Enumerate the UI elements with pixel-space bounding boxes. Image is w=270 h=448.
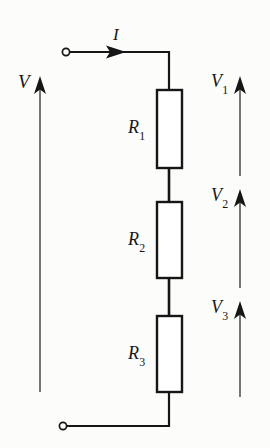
voltage-arrow-V2 [234, 189, 246, 288]
label-voltage-3-subscript: 3 [222, 309, 228, 323]
label-source-voltage-symbol: V [18, 71, 30, 92]
label-source-voltage: V [18, 72, 30, 95]
label-voltage-1-subscript: 1 [222, 83, 228, 97]
label-voltage-1-symbol: V [211, 71, 222, 91]
label-voltage-1: V1 [211, 72, 228, 94]
voltage-arrow-V [34, 76, 46, 392]
circuit-wiring [67, 52, 170, 426]
circuit-schematic-canvas [0, 0, 270, 448]
circuit-diagram-figure: V I R1 R2 R3 V1 V2 V3 [0, 0, 270, 448]
resistor-r3-body [157, 316, 182, 392]
label-resistor-2-subscript: 2 [139, 241, 145, 255]
label-resistor-2: R2 [128, 230, 145, 252]
label-resistor-1-subscript: 1 [139, 129, 145, 143]
wire-top-lead [70, 52, 170, 90]
label-current: I [113, 26, 119, 47]
voltage-arrow-V3 [234, 301, 246, 397]
label-current-symbol: I [113, 25, 119, 44]
voltage-arrow-V1 [234, 76, 246, 176]
resistor-r1-body [157, 90, 182, 168]
resistor-r2-body [157, 202, 182, 278]
bottom-terminal-node [59, 422, 66, 429]
label-voltage-2: V2 [211, 186, 228, 208]
label-resistor-3-subscript: 3 [139, 355, 145, 369]
top-terminal-node [62, 48, 69, 55]
label-resistor-3: R3 [128, 344, 145, 366]
label-resistor-3-symbol: R [128, 343, 139, 363]
label-resistor-1-symbol: R [128, 117, 139, 137]
label-voltage-2-subscript: 2 [222, 197, 228, 211]
label-voltage-3: V3 [211, 298, 228, 320]
label-voltage-3-symbol: V [211, 297, 222, 317]
wire-bottom-lead [67, 392, 170, 426]
label-resistor-1: R1 [128, 118, 145, 140]
label-voltage-2-symbol: V [211, 185, 222, 205]
label-resistor-2-symbol: R [128, 229, 139, 249]
